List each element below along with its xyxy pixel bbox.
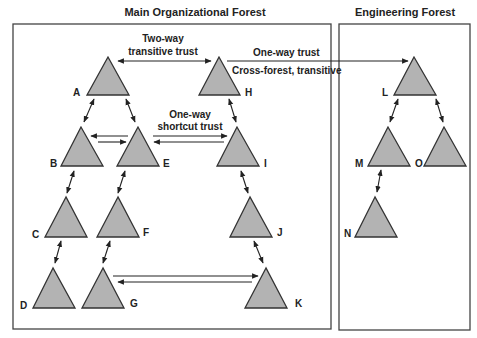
domain-I: I	[217, 127, 267, 169]
domain-label: A	[73, 87, 80, 98]
domain-tree-icon	[97, 197, 139, 237]
trust-arrow-e-f	[118, 171, 125, 193]
domain-label: K	[295, 298, 303, 309]
two-way-trust-label-line2: transitive trust	[128, 46, 198, 57]
engineering-forest-box	[339, 24, 470, 330]
domain-tree-icon	[61, 127, 103, 166]
domain-G: G	[82, 268, 138, 309]
domain-tree-icon	[394, 57, 436, 95]
domain-label: O	[415, 158, 423, 169]
domain-C: C	[32, 197, 87, 240]
domain-K: K	[245, 268, 303, 309]
two-way-trust-label-line1: Two-way	[142, 33, 184, 44]
domain-label: G	[130, 298, 138, 309]
trust-arrow-f-g	[103, 241, 110, 263]
one-way-trust-label: One-way trust	[253, 47, 320, 58]
domain-label: L	[382, 87, 388, 98]
trust-arrow-c-d	[55, 241, 61, 263]
domain-D: D	[20, 268, 75, 311]
trust-arrow-l-m	[390, 99, 398, 122]
domain-label: H	[245, 87, 252, 98]
trust-arrow-a-b	[84, 99, 94, 122]
domain-tree-icon	[117, 127, 159, 166]
domain-E: E	[117, 127, 170, 169]
domain-B: B	[50, 127, 103, 169]
domain-label: M	[355, 158, 363, 169]
domain-F: F	[97, 197, 149, 238]
shortcut-trust-label-line2: shortcut trust	[158, 121, 224, 132]
engineering-forest-title: Engineering Forest	[355, 6, 456, 18]
domain-label: J	[277, 227, 283, 238]
domain-tree-icon	[45, 197, 87, 237]
forest-trust-diagram: Main Organizational Forest Engineering F…	[0, 0, 477, 338]
trust-arrow-i-j	[241, 171, 248, 193]
domain-label: B	[50, 158, 57, 169]
trust-arrow-j-k	[254, 241, 263, 263]
trust-arrow-l-o	[436, 99, 443, 122]
domain-tree-icon	[217, 127, 259, 166]
domain-O: O	[415, 127, 466, 169]
domain-tree-icon	[368, 127, 410, 166]
domain-tree-icon	[355, 197, 397, 237]
domain-M: M	[355, 127, 410, 169]
domain-tree-icon	[424, 127, 466, 166]
domain-tree-icon	[87, 57, 129, 95]
trust-arrow-h-i	[229, 99, 236, 122]
domain-label: E	[163, 158, 170, 169]
trust-arrow-m-n	[377, 170, 381, 192]
domain-tree-icon	[82, 268, 124, 308]
domain-A: A	[73, 57, 129, 98]
domain-tree-icon	[245, 268, 287, 308]
domain-H: H	[199, 57, 252, 98]
domain-label: I	[264, 158, 267, 169]
domain-tree-icon	[33, 268, 75, 308]
trust-arrow-a-e	[126, 99, 135, 122]
domain-J: J	[230, 197, 283, 238]
domain-L: L	[382, 57, 436, 98]
domain-N: N	[344, 197, 397, 239]
main-forest-title: Main Organizational Forest	[124, 6, 266, 18]
trust-arrow-b-c	[67, 171, 74, 193]
domain-tree-icon	[230, 197, 272, 237]
domain-label: C	[32, 229, 39, 240]
cross-forest-label: Cross-forest, transitive	[232, 65, 342, 76]
domain-label: F	[143, 227, 149, 238]
shortcut-trust-label-line1: One-way	[169, 109, 211, 120]
domain-label: D	[20, 300, 27, 311]
domain-tree-icon	[199, 57, 240, 95]
domain-label: N	[344, 228, 351, 239]
